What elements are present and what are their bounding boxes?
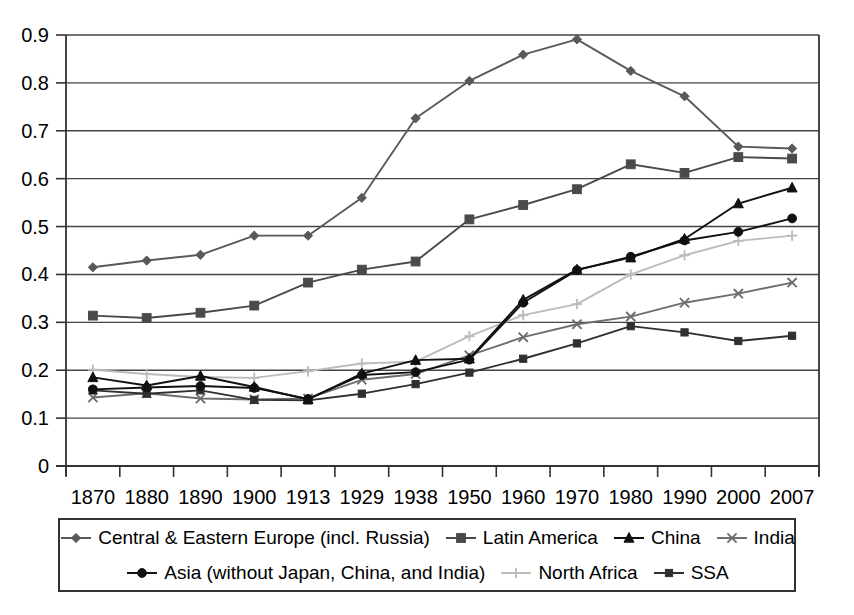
data-point-small-square xyxy=(412,381,419,388)
x-tick-label: 2007 xyxy=(770,486,815,505)
data-point-plus xyxy=(572,299,582,309)
data-point-diamond xyxy=(572,35,581,44)
legend-item[interactable]: North Africa xyxy=(499,563,637,582)
data-point-diamond xyxy=(72,533,81,542)
legend-item[interactable]: China xyxy=(612,528,701,547)
data-point-circle xyxy=(88,385,97,394)
data-point-plus xyxy=(626,269,636,279)
plot-frame xyxy=(56,35,819,476)
y-tick-label: 0.1 xyxy=(21,407,49,429)
legend-key xyxy=(444,530,478,546)
data-point-circle xyxy=(196,382,205,391)
data-point-square xyxy=(734,153,743,162)
legend-key xyxy=(125,565,159,581)
data-point-plus xyxy=(679,250,689,260)
data-point-small-square xyxy=(789,332,796,339)
series-layer xyxy=(88,35,798,404)
legend-marker-cross-x-icon xyxy=(715,530,749,546)
data-point-square xyxy=(626,160,635,169)
legend-item[interactable]: SSA xyxy=(652,563,729,582)
data-point-plus xyxy=(787,230,797,240)
data-point-square xyxy=(573,185,582,194)
x-axis-tick-labels: 1870188018901900191319291938195019601970… xyxy=(71,486,815,505)
series-ssa xyxy=(89,323,795,404)
y-tick-label: 0.8 xyxy=(21,72,49,94)
x-tick-label: 1880 xyxy=(124,486,169,505)
data-point-square xyxy=(519,201,528,210)
series-central-eastern-europe-incl-russia xyxy=(88,35,796,272)
x-tick-label: 1900 xyxy=(232,486,277,505)
data-point-triangle xyxy=(518,294,528,304)
data-point-square xyxy=(465,215,474,224)
y-tick-label: 0 xyxy=(38,455,49,477)
legend-key xyxy=(499,565,533,581)
data-point-small-square xyxy=(251,396,258,403)
legend-marker-circle-icon xyxy=(125,565,159,581)
legend-label: Latin America xyxy=(483,528,598,547)
series-asia-without-japan-china-and-india xyxy=(88,214,796,403)
legend-label: China xyxy=(651,528,701,547)
legend-item[interactable]: India xyxy=(715,528,795,547)
chart-legend: Central & Eastern Europe (incl. Russia)L… xyxy=(58,518,796,592)
y-axis-tick-labels: 0.90.80.70.60.50.40.30.20.10 xyxy=(21,24,66,477)
data-point-diamond xyxy=(626,66,635,75)
legend-row-2: Asia (without Japan, China, and India)No… xyxy=(60,555,794,590)
data-point-diamond xyxy=(250,231,259,240)
x-tick-label: 1970 xyxy=(555,486,600,505)
series-line xyxy=(93,188,792,400)
legend-item[interactable]: Asia (without Japan, China, and India) xyxy=(125,563,485,582)
data-point-triangle xyxy=(787,182,797,192)
data-point-circle xyxy=(411,368,420,377)
data-point-small-square xyxy=(735,337,742,344)
y-tick-label: 0.5 xyxy=(21,216,49,238)
legend-label: Asia (without Japan, China, and India) xyxy=(164,563,485,582)
data-point-square xyxy=(357,265,366,274)
legend-item[interactable]: Latin America xyxy=(444,528,598,547)
series-line xyxy=(93,39,792,267)
data-point-small-square xyxy=(358,390,365,397)
data-point-plus xyxy=(303,366,313,376)
data-point-circle xyxy=(734,227,743,236)
x-tick-label: 1990 xyxy=(662,486,707,505)
line-chart: 0.90.80.70.60.50.40.30.20.10 18701880189… xyxy=(0,0,854,505)
legend-marker-small-square-icon xyxy=(652,565,686,581)
data-point-plus xyxy=(518,310,528,320)
legend-marker-square-icon xyxy=(444,530,478,546)
x-tick-label: 1960 xyxy=(501,486,546,505)
x-tick-label: 1870 xyxy=(71,486,116,505)
data-point-plus xyxy=(733,236,743,246)
legend-item[interactable]: Central & Eastern Europe (incl. Russia) xyxy=(59,528,430,547)
data-point-diamond xyxy=(88,263,97,272)
x-axis-ticks xyxy=(66,466,819,477)
x-tick-label: 2000 xyxy=(716,486,761,505)
data-point-plus xyxy=(464,331,474,341)
legend-key xyxy=(59,530,93,546)
legend-marker-diamond-icon xyxy=(59,530,93,546)
data-point-circle xyxy=(138,568,147,577)
data-point-small-square xyxy=(573,340,580,347)
legend-marker-plus-icon xyxy=(499,565,533,581)
legend-key xyxy=(715,530,749,546)
data-point-diamond xyxy=(519,50,528,59)
y-tick-label: 0.7 xyxy=(21,120,49,142)
data-point-square xyxy=(456,533,465,542)
legend-key xyxy=(612,530,646,546)
data-point-square xyxy=(788,154,797,163)
y-tick-label: 0.6 xyxy=(21,168,49,190)
legend-label: North Africa xyxy=(538,563,637,582)
x-tick-label: 1890 xyxy=(178,486,223,505)
series-india xyxy=(88,278,796,404)
data-point-square xyxy=(88,311,97,320)
x-tick-label: 1980 xyxy=(609,486,654,505)
chart-canvas: 0.90.80.70.60.50.40.30.20.10 18701880189… xyxy=(0,0,854,505)
x-tick-label: 1929 xyxy=(340,486,385,505)
x-tick-label: 1938 xyxy=(393,486,438,505)
y-tick-label: 0.2 xyxy=(21,359,49,381)
data-point-square xyxy=(196,308,205,317)
data-point-square xyxy=(304,278,313,287)
y-tick-label: 0.3 xyxy=(21,311,49,333)
data-point-circle xyxy=(788,214,797,223)
data-point-square xyxy=(142,314,151,323)
data-point-small-square xyxy=(466,369,473,376)
legend-key xyxy=(652,565,686,581)
